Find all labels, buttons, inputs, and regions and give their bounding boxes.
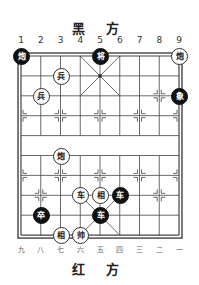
red-piece-相[interactable]: 相: [53, 227, 70, 244]
black-piece-炮[interactable]: 炮: [13, 48, 30, 65]
black-piece-车[interactable]: 车: [112, 187, 129, 204]
red-piece-兵[interactable]: 兵: [33, 88, 50, 105]
red-piece-兵[interactable]: 兵: [53, 68, 70, 85]
xiangqi-board: [0, 0, 199, 285]
black-piece-象[interactable]: 象: [171, 88, 188, 105]
red-piece-炮[interactable]: 炮: [171, 48, 188, 65]
black-piece-卒[interactable]: 卒: [33, 207, 50, 224]
black-piece-将[interactable]: 将: [92, 48, 109, 65]
red-piece-炮[interactable]: 炮: [53, 148, 70, 165]
